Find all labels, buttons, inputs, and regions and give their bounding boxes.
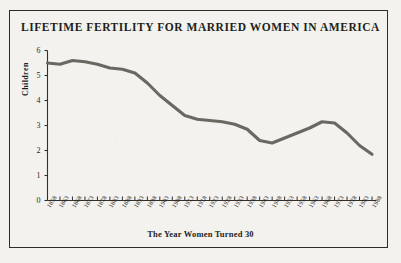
y-tick-label: 3 bbox=[27, 121, 41, 130]
y-tick-label: 1 bbox=[27, 171, 41, 180]
y-tick-label: 4 bbox=[27, 96, 41, 105]
y-tick-label: 0 bbox=[27, 196, 41, 205]
y-tick-label: 6 bbox=[27, 46, 41, 55]
figure-container: LIFETIME FERTILITY FOR MARRIED WOMEN IN … bbox=[0, 0, 401, 263]
y-tick-label: 5 bbox=[27, 71, 41, 80]
axes-group bbox=[48, 51, 377, 201]
y-tick-label: 2 bbox=[27, 146, 41, 155]
line-chart-plot bbox=[0, 0, 401, 263]
fertility-line-series bbox=[48, 61, 373, 155]
tick-marks-group bbox=[45, 51, 373, 201]
